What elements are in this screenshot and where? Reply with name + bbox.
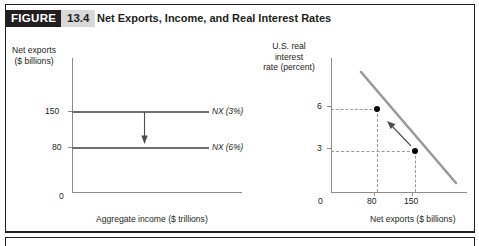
figure-container: FIGURE 13.4 Net Exports, Income, and Rea…: [0, 0, 479, 246]
right-chart-point-80-6: [374, 106, 380, 112]
right-chart-x-axis-label: Net exports ($ billions): [370, 214, 456, 224]
right-chart-point-150-3: [412, 148, 418, 154]
right-chart-schedule: [0, 0, 479, 246]
